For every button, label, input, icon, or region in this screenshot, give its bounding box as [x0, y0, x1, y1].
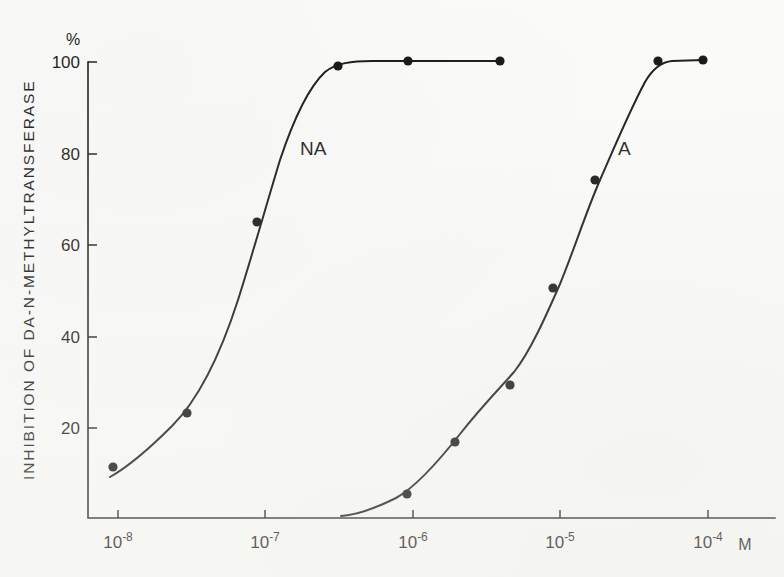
x-tick-label-1e-6: 10-6: [398, 530, 428, 552]
x-tick-label-1e-7: 10-7: [250, 530, 280, 552]
x-tick-exponent: -7: [269, 530, 280, 544]
data-point: [403, 56, 412, 65]
data-point: [698, 55, 707, 64]
data-point: [653, 56, 662, 65]
x-tick-marks: [118, 510, 708, 518]
data-point: [108, 462, 117, 471]
x-tick-exponent: -4: [712, 530, 723, 544]
x-tick-mantissa: 10: [398, 533, 417, 552]
data-point: [252, 217, 261, 226]
data-point: [590, 175, 599, 184]
x-tick-exponent: -6: [417, 530, 428, 544]
curve-na: [110, 61, 500, 477]
data-point: [548, 283, 557, 292]
y-axis-unit-percent: %: [66, 31, 80, 48]
x-tick-mantissa: 10: [250, 533, 269, 552]
curve-label-a: A: [618, 138, 631, 159]
svg-text:10-5: 10-5: [545, 530, 575, 552]
data-point: [505, 380, 514, 389]
x-tick-mantissa: 10: [103, 533, 122, 552]
y-tick-label-40: 40: [61, 328, 80, 347]
x-tick-exponent: -5: [564, 530, 575, 544]
data-points-a: [402, 55, 707, 498]
x-tick-mantissa: 10: [545, 533, 564, 552]
data-point: [402, 489, 411, 498]
x-tick-label-1e-8: 10-8: [103, 530, 133, 552]
svg-text:10-4: 10-4: [693, 530, 723, 552]
curve-label-na: NA: [300, 138, 327, 159]
data-point: [495, 56, 504, 65]
svg-text:10-8: 10-8: [103, 530, 133, 552]
data-point: [182, 408, 191, 417]
y-tick-label-100: 100: [52, 53, 80, 72]
svg-text:10-7: 10-7: [250, 530, 280, 552]
data-points-na: [108, 56, 504, 471]
chart-figure: 100 80 60 40 20 % 10-8 10-7 10-6 10-5 10…: [0, 0, 784, 577]
x-axis-unit-molar: M: [738, 536, 751, 553]
x-tick-label-1e-5: 10-5: [545, 530, 575, 552]
y-tick-label-80: 80: [61, 145, 80, 164]
svg-text:10-6: 10-6: [398, 530, 428, 552]
y-axis-title: INHIBITION OF DA-N-METHYLTRANSFERASE: [20, 79, 37, 480]
chart-svg: 100 80 60 40 20 % 10-8 10-7 10-6 10-5 10…: [0, 0, 784, 577]
y-tick-label-20: 20: [61, 419, 80, 438]
y-tick-marks: [88, 62, 97, 428]
x-tick-label-1e-4: 10-4: [693, 530, 723, 552]
axis-frame: [88, 62, 775, 518]
curve-a: [341, 60, 703, 516]
y-tick-label-60: 60: [61, 236, 80, 255]
x-tick-mantissa: 10: [693, 533, 712, 552]
data-point: [450, 437, 459, 446]
data-point: [333, 61, 342, 70]
x-tick-exponent: -8: [122, 530, 133, 544]
